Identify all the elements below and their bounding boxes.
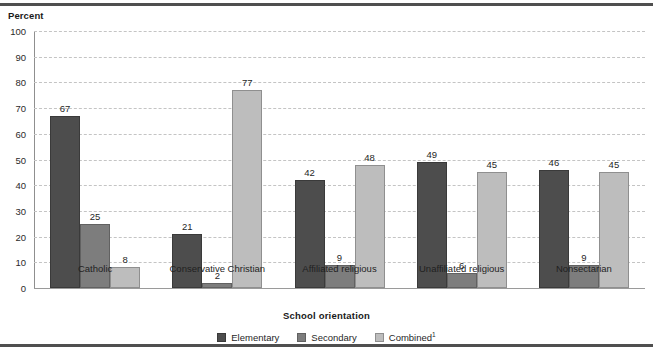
bar: 6 [447, 273, 477, 288]
legend-label: Secondary [311, 332, 356, 343]
bar-group: 46945 [539, 31, 629, 288]
bar: 21 [172, 234, 202, 288]
bar-group: 67258 [50, 31, 140, 288]
bar-value-label: 46 [549, 157, 560, 168]
bar-value-label: 77 [242, 77, 253, 88]
chart-legend: ElementarySecondaryCombined1 [0, 331, 653, 343]
y-tick-label-10: 10 [0, 257, 30, 268]
x-tick-label: Unaffiliated religious [419, 263, 504, 274]
legend-label: Combined1 [389, 331, 436, 343]
y-tick-label-40: 40 [0, 180, 30, 191]
y-tick-label-50: 50 [0, 154, 30, 165]
legend-item[interactable]: Secondary [297, 332, 356, 343]
bar-value-label: 42 [304, 167, 315, 178]
bar: 77 [232, 90, 262, 288]
legend-swatch [217, 333, 226, 342]
y-tick-label-100: 100 [0, 26, 30, 37]
top-divider-rule [0, 3, 653, 6]
bar-groups: 6725821277429484964546945 [34, 31, 645, 288]
bar-value-label: 9 [581, 252, 586, 263]
legend-item[interactable]: Elementary [217, 332, 279, 343]
plot-area: 6725821277429484964546945 [34, 31, 645, 288]
y-tick-label-60: 60 [0, 128, 30, 139]
bar: 67 [50, 116, 80, 288]
gridline-0 [34, 288, 645, 289]
x-tick-label: Affiliated religious [302, 263, 376, 274]
legend-swatch [297, 333, 306, 342]
bar-value-label: 45 [609, 159, 620, 170]
y-axis-tick-labels: 1009080706050403020100 [0, 0, 30, 353]
y-tick-label-20: 20 [0, 231, 30, 242]
bar-value-label: 21 [182, 221, 193, 232]
y-tick-label-70: 70 [0, 103, 30, 114]
bar-value-label: 45 [486, 159, 497, 170]
legend-label: Elementary [231, 332, 279, 343]
bar-group: 42948 [295, 31, 385, 288]
y-tick-label-30: 30 [0, 205, 30, 216]
bar: 2 [202, 283, 232, 288]
x-tick-label: Nonsectarian [556, 263, 612, 274]
y-tick-label-80: 80 [0, 77, 30, 88]
bar-value-label: 49 [426, 149, 437, 160]
legend-item[interactable]: Combined1 [375, 331, 436, 343]
bar-value-label: 25 [90, 211, 101, 222]
bar: 25 [80, 224, 110, 288]
bottom-divider-rule [0, 344, 653, 347]
bar-value-label: 9 [337, 252, 342, 263]
bar-group: 21277 [172, 31, 262, 288]
bar-value-label: 48 [364, 152, 375, 163]
y-tick-label-0: 0 [0, 283, 30, 294]
x-axis-title: School orientation [0, 310, 653, 321]
x-tick-label: Catholic [78, 263, 112, 274]
legend-swatch [375, 333, 384, 342]
bar: 8 [110, 267, 140, 288]
bar-value-label: 8 [122, 254, 127, 265]
bar-group: 49645 [417, 31, 507, 288]
bar-value-label: 67 [60, 103, 71, 114]
bar-chart-figure: Percent 1009080706050403020100 672582127… [0, 0, 653, 353]
y-tick-label-90: 90 [0, 51, 30, 62]
x-tick-label: Conservative Christian [170, 263, 266, 274]
